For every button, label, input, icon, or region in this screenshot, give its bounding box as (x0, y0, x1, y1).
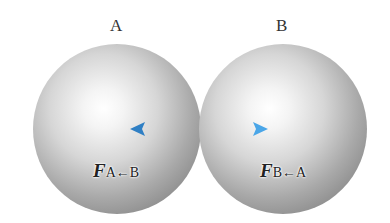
force-subscript: A←B (106, 165, 139, 180)
force-arrow-diagram (0, 0, 390, 223)
force-symbol: F (93, 160, 106, 181)
double-arrow-icon (130, 122, 268, 136)
force-label-a-from-b: FA←B (93, 160, 139, 182)
force-label-b-from-a: FB←A (260, 160, 306, 182)
force-symbol: F (260, 160, 273, 181)
force-subscript: B←A (273, 165, 306, 180)
